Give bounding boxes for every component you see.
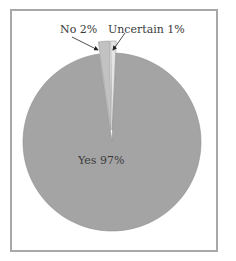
label-no: No 2% — [60, 23, 97, 36]
pie-chart: No 2% Uncertain 1% Yes 97% — [0, 0, 236, 261]
label-uncertain: Uncertain 1% — [108, 23, 185, 36]
no-arrow — [72, 37, 98, 50]
label-yes: Yes 97% — [77, 154, 124, 167]
